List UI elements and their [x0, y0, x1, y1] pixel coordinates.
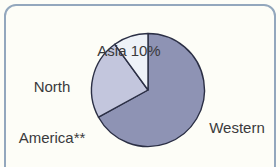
pie-label-north-america-line2: America**: [4, 129, 100, 146]
pie-label-north-america-line1: North: [4, 78, 100, 95]
pie-label-western-europe: Western Europe 67%: [196, 85, 278, 167]
pie-chart-figure: Asia 10% North America** 23% Western Eur…: [0, 0, 280, 167]
chart-plot-area: Asia 10% North America** 23% Western Eur…: [0, 0, 280, 167]
pie-label-north-america: North America** 23%: [4, 44, 100, 167]
pie-label-western-europe-line1: Western: [196, 119, 278, 136]
